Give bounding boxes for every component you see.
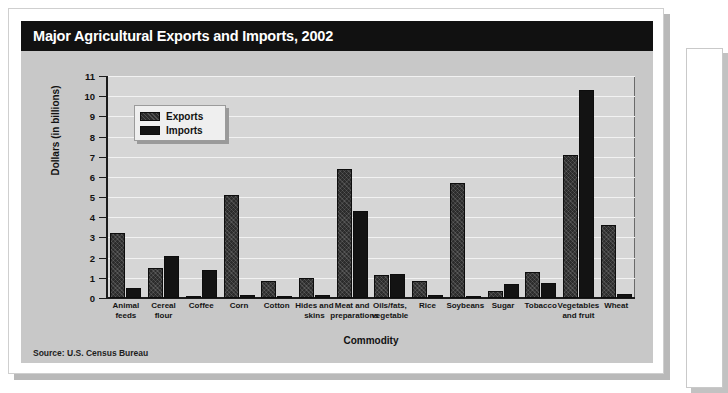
y-tick-mark — [99, 76, 106, 77]
bar-exports — [374, 275, 389, 298]
figure-root: Major Agricultural Exports and Imports, … — [0, 0, 728, 393]
bar-group — [525, 76, 556, 298]
y-tick-mark — [99, 137, 106, 138]
bar-imports — [390, 274, 405, 298]
bar-exports — [488, 291, 503, 298]
legend-label-imports: Imports — [166, 125, 203, 136]
bar-group — [412, 76, 443, 298]
x-axis-category-label: Wheat — [594, 301, 638, 311]
bar-group — [374, 76, 405, 298]
bar-exports — [450, 183, 465, 298]
bar-group — [450, 76, 481, 298]
bar-exports — [412, 281, 427, 298]
y-tick-mark — [99, 258, 106, 259]
y-tick-label: 5 — [90, 192, 95, 203]
bar-imports — [617, 294, 632, 298]
y-tick-label: 3 — [90, 232, 95, 243]
figure-card: Major Agricultural Exports and Imports, … — [8, 8, 664, 374]
bar-imports — [353, 211, 368, 298]
y-tick-label: 7 — [90, 151, 95, 162]
x-axis-title: Commodity — [107, 335, 635, 346]
bar-imports — [202, 270, 217, 298]
bar-exports — [337, 169, 352, 298]
y-tick-label: 2 — [90, 252, 95, 263]
bar-exports — [299, 278, 314, 298]
page-title: Major Agricultural Exports and Imports, … — [21, 28, 333, 44]
y-tick-mark — [99, 96, 106, 97]
y-tick-label: 4 — [90, 212, 95, 223]
y-tick-mark — [99, 217, 106, 218]
bar-exports — [110, 233, 125, 298]
bar-imports — [428, 295, 443, 298]
y-tick-mark — [99, 177, 106, 178]
y-tick-label: 8 — [90, 131, 95, 142]
y-tick-label: 1 — [90, 272, 95, 283]
y-tick-mark — [99, 298, 106, 299]
y-tick-label: 6 — [90, 171, 95, 182]
y-tick-label: 0 — [90, 293, 95, 304]
y-tick-label: 11 — [85, 71, 95, 82]
bar-group — [563, 76, 594, 298]
y-tick-mark — [99, 197, 106, 198]
bar-imports — [579, 90, 594, 298]
legend-item-exports: Exports — [140, 110, 220, 123]
bar-exports — [186, 296, 201, 298]
bar-exports — [148, 268, 163, 298]
x-axis-category-labels: AnimalfeedsCerealflourCoffeeCornCottonHi… — [107, 301, 635, 331]
chart-body: Dollars (in billions) 01234567891011 Exp… — [21, 51, 653, 363]
bar-imports — [277, 296, 292, 298]
bar-group — [261, 76, 292, 298]
y-tick-mark — [99, 278, 106, 279]
bar-group — [601, 76, 632, 298]
legend-swatch-imports-icon — [140, 126, 160, 135]
bar-imports — [315, 295, 330, 298]
y-tick-mark — [99, 237, 106, 238]
y-tick-label: 9 — [90, 111, 95, 122]
bar-imports — [126, 288, 141, 298]
y-tick-label: 10 — [84, 91, 95, 102]
y-axis-title: Dollars (in billions) — [50, 51, 61, 211]
bar-imports — [164, 256, 179, 298]
bar-imports — [541, 283, 556, 298]
bar-exports — [224, 195, 239, 298]
bar-exports — [563, 155, 578, 298]
bar-exports — [261, 281, 276, 298]
side-panel — [686, 48, 723, 388]
legend: Exports Imports — [134, 105, 226, 141]
bar-group — [337, 76, 368, 298]
bar-exports — [525, 272, 540, 298]
bar-group — [299, 76, 330, 298]
legend-item-imports: Imports — [140, 124, 220, 137]
source-note: Source: U.S. Census Bureau — [33, 348, 148, 358]
bar-imports — [504, 284, 519, 298]
bar-exports — [601, 225, 616, 298]
title-bar: Major Agricultural Exports and Imports, … — [21, 21, 653, 51]
bar-group — [488, 76, 519, 298]
bar-imports — [466, 296, 481, 298]
y-tick-mark — [99, 116, 106, 117]
bar-imports — [240, 295, 255, 298]
legend-swatch-exports-icon — [140, 112, 160, 121]
legend-label-exports: Exports — [166, 111, 203, 122]
y-tick-mark — [99, 157, 106, 158]
